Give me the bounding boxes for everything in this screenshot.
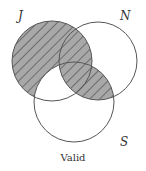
venn-diagram: J N S Valid [0, 0, 146, 171]
label-n: N [119, 9, 131, 23]
caption: Valid [59, 152, 86, 163]
label-s: S [120, 135, 128, 149]
label-j: J [15, 9, 24, 23]
